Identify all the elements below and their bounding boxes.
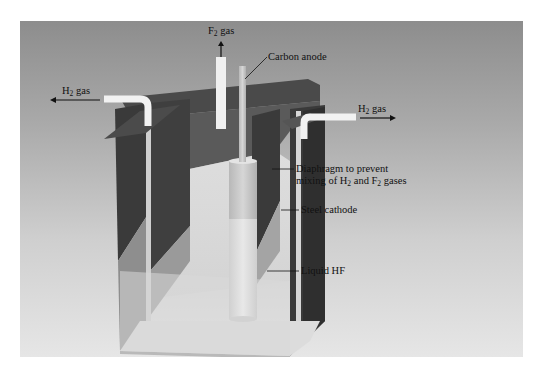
liquid-hf-label: Liquid HF [301, 265, 345, 277]
electrolytic-cell-illustration [20, 21, 523, 357]
cathode-right [296, 111, 301, 346]
h2-gas-right-label: H2 gas [358, 103, 386, 115]
carbon-anode-rod [239, 66, 246, 162]
h2-gas-left-label: H2 gas [62, 85, 90, 97]
diagram-panel: F2 gas Carbon anode H2 gas H2 gas Diaphr… [20, 21, 523, 357]
f2-gas-label: F2 gas [208, 25, 234, 37]
anode-leader [245, 57, 267, 79]
steel-cathode-label: Steel cathode [301, 204, 357, 216]
diaphragm-label: Diaphragm to prevent mixing of H2 and F2… [296, 163, 406, 187]
f2-outlet-tube [216, 57, 226, 129]
anode-cylinder-lower [229, 219, 257, 319]
carbon-anode-label: Carbon anode [268, 51, 327, 63]
anode-cylinder-upper [229, 161, 257, 219]
